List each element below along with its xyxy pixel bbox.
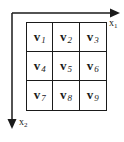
grid-cell-v1: v1 xyxy=(27,23,53,52)
cell-variable: v1 xyxy=(34,30,46,45)
cell-variable: v3 xyxy=(87,30,99,45)
grid-cell-v2: v2 xyxy=(53,23,79,52)
var-subscript: 5 xyxy=(67,64,72,74)
var-base: v xyxy=(34,29,41,44)
var-subscript: 4 xyxy=(41,64,46,74)
cell-variable: v8 xyxy=(60,88,72,103)
grid-cell-v7: v7 xyxy=(27,81,53,110)
grid-cell-v8: v8 xyxy=(53,81,79,110)
var-subscript: 3 xyxy=(94,35,99,45)
cell-variable: v9 xyxy=(87,88,99,103)
var-base: v xyxy=(34,58,41,73)
cell-variable: v5 xyxy=(60,59,72,74)
x1-axis-label: x1 xyxy=(109,18,118,30)
var-base: v xyxy=(60,29,67,44)
grid-cell-v4: v4 xyxy=(27,52,53,81)
var-subscript: 1 xyxy=(41,35,46,45)
var-subscript: 7 xyxy=(41,93,46,103)
variable-grid: v1 v2 v3 v4 v5 v6 v7 v8 v9 xyxy=(26,22,107,111)
var-subscript: 6 xyxy=(94,64,99,74)
grid-cell-v5: v5 xyxy=(53,52,79,81)
var-base: v xyxy=(60,87,67,102)
x2-axis-label: x2 xyxy=(19,117,28,129)
grid-cell-v6: v6 xyxy=(80,52,106,81)
var-base: v xyxy=(87,29,94,44)
grid-cell-v9: v9 xyxy=(80,81,106,110)
var-subscript: 2 xyxy=(67,35,72,45)
x2-arrowhead-icon xyxy=(8,119,17,129)
var-base: v xyxy=(87,87,94,102)
cell-variable: v2 xyxy=(60,30,72,45)
var-subscript: 9 xyxy=(94,93,99,103)
grid-cell-v3: v3 xyxy=(80,23,106,52)
cell-variable: v7 xyxy=(34,88,46,103)
var-base: v xyxy=(34,87,41,102)
var-subscript: 8 xyxy=(67,93,72,103)
x2-subscript: 2 xyxy=(24,121,28,129)
var-base: v xyxy=(87,58,94,73)
var-base: v xyxy=(60,58,67,73)
x1-subscript: 1 xyxy=(114,22,118,30)
cell-variable: v4 xyxy=(34,59,46,74)
grid-diagram: x1 x2 v1 v2 v3 v4 v5 v6 v7 v8 v9 xyxy=(0,0,124,142)
cell-variable: v6 xyxy=(87,59,99,74)
